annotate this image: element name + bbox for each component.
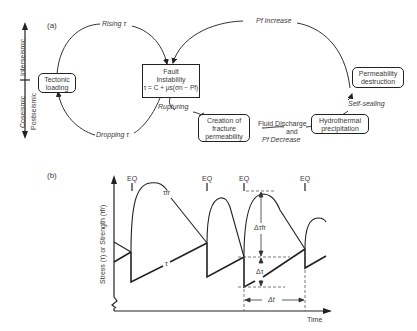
- node-text: fracture: [199, 125, 249, 133]
- node-text: Fault: [143, 68, 199, 76]
- edge-and: and: [286, 128, 298, 136]
- node-text: Hydrothermal: [312, 117, 368, 125]
- node-text: Permeability: [353, 70, 403, 78]
- strength-curve-label: τfr: [163, 189, 170, 197]
- node-text: precipitation: [312, 125, 368, 133]
- node-hydrothermal-precipitation: Hydrothermal precipitation: [311, 114, 369, 134]
- delta-time-label: Δt: [268, 296, 275, 304]
- eq-marker-4: EQ: [300, 175, 310, 183]
- node-tectonic-loading: Tectonic loading: [38, 73, 76, 93]
- postseismic-label: Postseismic: [30, 93, 37, 130]
- node-text: loading: [39, 84, 75, 92]
- edge-dropping-tau: Dropping τ: [96, 131, 129, 139]
- coseismic-label: Coseismic: [19, 96, 26, 128]
- strength-curve: [114, 183, 326, 257]
- y-axis-label: Stress (τ) or Strength (τfr): [99, 205, 106, 284]
- panel-a-label: (a): [47, 22, 57, 30]
- panel-b-label: (b): [47, 172, 57, 180]
- node-creation-fracture-permeability: Creation of fracture permeability: [198, 114, 250, 142]
- node-permeability-destruction: Permeability destruction: [352, 67, 404, 88]
- edge-self-sealing: Self-sealing: [348, 100, 385, 108]
- x-axis-label: Time: [307, 316, 322, 324]
- stress-curve-label: τ: [165, 260, 168, 268]
- edge-pf-increase: Pf Increase: [256, 17, 291, 25]
- eq-marker-3: EQ: [239, 175, 249, 183]
- node-text: destruction: [353, 78, 403, 86]
- edge-pf-decrease: Pf Decrease: [262, 136, 301, 144]
- eq-ticks: [132, 183, 305, 191]
- edge-fluid-discharge: Fluid Discharge: [258, 120, 307, 128]
- edge-rupturing: Rupturing: [158, 103, 188, 111]
- delta-strength-label: Δτfr: [254, 224, 266, 232]
- node-text: Instability: [143, 76, 199, 84]
- diagram-linework: [0, 0, 417, 331]
- edge-rising-tau: Rising τ: [102, 20, 126, 28]
- node-text: permeability: [199, 133, 249, 141]
- dashed-guides: [238, 191, 305, 311]
- chart-axes: [111, 175, 332, 314]
- interseismic-label: Interseismic: [19, 39, 26, 76]
- eq-marker-1: EQ: [127, 175, 137, 183]
- eq-marker-2: EQ: [202, 175, 212, 183]
- equation-text: τ = C + μs(σn − Pf): [143, 84, 199, 92]
- node-text: Creation of: [199, 117, 249, 125]
- stress-curve: [114, 243, 326, 287]
- node-text: Tectonic: [39, 76, 75, 84]
- delta-stress-label: Δτ: [256, 268, 263, 276]
- node-fault-instability: Fault Instability τ = C + μs(σn − Pf): [142, 64, 200, 98]
- delta-arrows: [245, 192, 304, 302]
